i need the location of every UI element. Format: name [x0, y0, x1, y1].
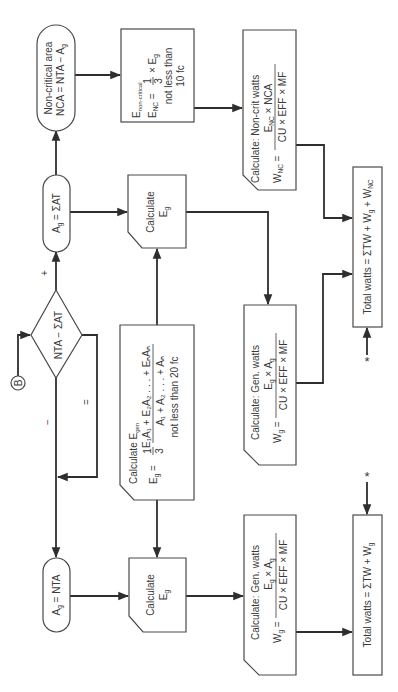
flow-wnc-to-total	[296, 145, 352, 218]
flowchart: B NTA − ΣAT + − = Non-critical area NCA …	[0, 0, 398, 692]
calc-eg-box-top	[128, 175, 186, 248]
enc-line4: 10 fc	[175, 65, 186, 87]
calc-eg-bottom-line1: Calculate	[145, 574, 156, 616]
asterisk-bottom: *	[364, 469, 369, 484]
wnc-den: CU × EFF × MF	[277, 72, 288, 143]
branch-plus-label: +	[39, 270, 50, 276]
egen-frac-num: E₁A₁ + E₂A₂ . . . + EₙAₙ	[141, 346, 152, 448]
flow-b-to-decision	[18, 335, 30, 376]
branch-equal-label: =	[81, 399, 92, 405]
wg-bottom-title: Calculate: Gen. watts	[250, 545, 261, 640]
calc-eg-top-line1: Calculate	[145, 191, 156, 233]
wg-mid-title: Calculate: Gen. watts	[250, 345, 261, 440]
egen-coef-den: 3	[154, 448, 165, 454]
flow-calceg-to-wg-mid	[186, 212, 268, 304]
egen-note: not less than 20 fc	[169, 356, 180, 437]
wnc-title: Calculate: Non-crit watts	[250, 75, 261, 183]
decision-label: NTA − ΣAT	[53, 311, 64, 359]
asterisk-top: *	[364, 354, 369, 369]
wg-mid-den: CU × EFF × MF	[278, 340, 289, 411]
egen-frac-den: A₁ + A₂ . . . + Aₙ	[155, 356, 166, 426]
enc-line3: not less than	[163, 48, 174, 105]
connector-b-label: B	[13, 379, 24, 386]
noncritical-line1: Non-critical area	[43, 41, 54, 114]
branch-minus-label: −	[42, 419, 53, 425]
flow-wg-mid-to-total	[296, 274, 352, 383]
enc-frac-num: 1	[142, 78, 153, 84]
wg-bottom-den: CU × EFF × MF	[278, 540, 289, 611]
